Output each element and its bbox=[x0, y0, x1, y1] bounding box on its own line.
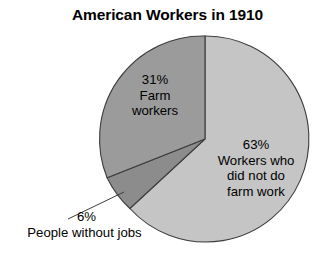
slice-label-people-without-jobs: 6% People without jobs bbox=[2, 209, 167, 240]
slice-percent-farm-workers: 31% bbox=[112, 72, 198, 88]
slice-desc-farm-line-1: Farm bbox=[112, 88, 198, 104]
slice-label-farm-workers: 31% Farm workers bbox=[112, 72, 198, 119]
pie-chart-figure: American Workers in 1910 63% Workers who… bbox=[0, 0, 335, 265]
slice-label-non-farm-workers: 63% Workers who did not do farm work bbox=[196, 137, 316, 199]
slice-percent-people-without-jobs: 6% bbox=[6, 209, 167, 225]
slice-percent-non-farm-workers: 63% bbox=[196, 137, 316, 153]
slice-desc-line-2: did not do bbox=[196, 168, 316, 184]
slice-desc-line-3: farm work bbox=[196, 184, 316, 200]
slice-desc-people-without-jobs: People without jobs bbox=[2, 225, 167, 241]
slice-desc-farm-line-2: workers bbox=[112, 103, 198, 119]
slice-desc-line-1: Workers who bbox=[196, 153, 316, 169]
